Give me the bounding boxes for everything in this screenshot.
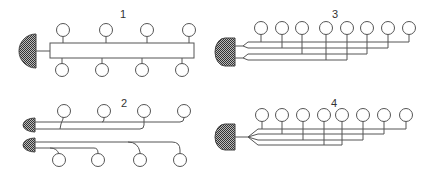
outlet-circle [57, 24, 70, 37]
outlet-circle [320, 22, 333, 35]
outlet-circle [92, 154, 105, 167]
outlet-circle [256, 109, 269, 122]
outlet-circle [178, 105, 191, 118]
outlet-circle [141, 24, 154, 37]
bottom-outlets [56, 58, 189, 77]
outlet-circle [400, 109, 413, 122]
panel-4-label: 4 [331, 98, 337, 109]
panel-1 [19, 24, 196, 77]
outlet-circle [100, 24, 113, 37]
outlet-circle [56, 64, 69, 77]
outlet-circle [361, 22, 374, 35]
source-half-disc [23, 118, 35, 132]
outlet-circle [53, 154, 66, 167]
outlet-circle [382, 22, 395, 35]
outlet-circle [98, 105, 111, 118]
source-half-disc [215, 38, 235, 66]
panel-1-label: 1 [120, 9, 126, 20]
outlet-circle [341, 22, 354, 35]
outlet-circle [297, 109, 310, 122]
outlets [256, 109, 413, 122]
outlet-circle [255, 22, 268, 35]
top-outlets [57, 24, 196, 44]
source-half-disc [23, 138, 35, 152]
panel-2 [23, 105, 191, 167]
outlet-circle [357, 109, 370, 122]
outlet-circle [136, 64, 149, 77]
outlet-circle [183, 24, 196, 37]
diagram-canvas [0, 0, 431, 173]
outlet-circle [336, 109, 349, 122]
source-half-disc [215, 124, 235, 150]
panel-3 [215, 22, 416, 67]
outlet-circle [378, 109, 391, 122]
panel-2-label: 2 [121, 98, 127, 109]
source-half-disc [19, 34, 36, 68]
panel-3-label: 3 [332, 9, 338, 20]
outlet-circle [134, 154, 147, 167]
outlet-circle [96, 64, 109, 77]
outlet-circle [403, 22, 416, 35]
outlet-circle [176, 64, 189, 77]
outlet-circle [318, 109, 331, 122]
panel-4 [215, 109, 413, 151]
outlet-circle [174, 154, 187, 167]
outlet-circle [276, 109, 289, 122]
outlet-circle [296, 22, 309, 35]
outlet-circle [276, 22, 289, 35]
outlet-circle [138, 105, 151, 118]
manifold-box [50, 43, 194, 58]
outlet-circle [58, 105, 71, 118]
outlets [255, 22, 416, 35]
